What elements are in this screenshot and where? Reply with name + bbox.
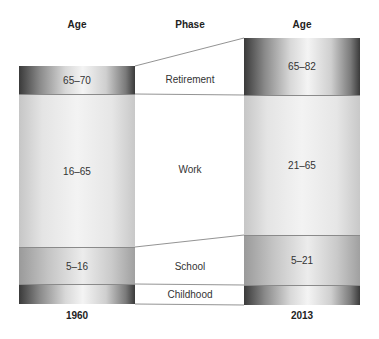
segment-1960-school: 5–16	[19, 247, 135, 284]
segment-1960-work: 16–65	[19, 94, 135, 247]
age-range-1960-retirement: 65–70	[63, 75, 91, 86]
year-label-1960: 1960	[37, 310, 117, 321]
segment-2013-work: 21–65	[244, 95, 360, 235]
age-range-2013-work: 21–65	[288, 160, 316, 171]
segment-2013-retirement: 65–82	[244, 38, 360, 95]
phase-label-work: Work	[136, 164, 244, 175]
segment-2013-school: 5–21	[244, 235, 360, 285]
phase-label-childhood: Childhood	[136, 289, 244, 300]
year-label-2013: 2013	[262, 310, 342, 321]
age-range-1960-school: 5–16	[66, 261, 88, 272]
segment-1960-childhood	[19, 284, 135, 304]
segment-2013-childhood	[244, 285, 360, 305]
age-range-2013-retirement: 65–82	[288, 61, 316, 72]
column-2013: 65–82 21–65 5–21	[244, 38, 360, 305]
phase-label-retirement: Retirement	[136, 74, 244, 85]
segment-1960-retirement: 65–70	[19, 66, 135, 94]
phase-label-school: School	[136, 261, 244, 272]
age-range-1960-work: 16–65	[63, 166, 91, 177]
column-1960: 65–70 16–65 5–16	[19, 66, 135, 304]
age-range-2013-school: 5–21	[291, 255, 313, 266]
